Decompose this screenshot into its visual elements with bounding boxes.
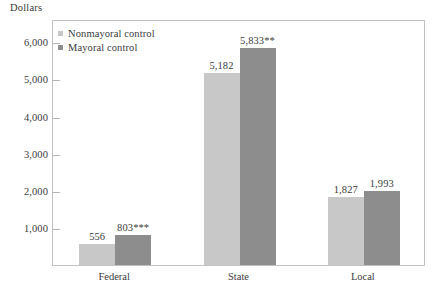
bar-value-label: 5,833** — [228, 35, 288, 46]
x-axis-label-state: State — [189, 271, 289, 282]
bar-federal-mayoral — [115, 235, 151, 265]
bar-state-mayoral — [240, 48, 276, 265]
bars-layer: 556803***5,1825,833**1,8271,993 — [53, 21, 424, 265]
legend-swatch-icon-mayoral — [58, 45, 63, 50]
y-axis-tick-label: 3,000 — [24, 148, 48, 159]
legend-item-mayoral: Mayoral control — [58, 41, 155, 53]
bar-chart: Dollars 1,0002,0003,0004,0005,0006,000 5… — [0, 0, 436, 291]
y-axis-tick-label: 4,000 — [24, 111, 48, 122]
y-axis-tick-mark — [53, 192, 60, 193]
bar-local-nonmayoral — [328, 197, 364, 265]
y-axis-tick-label: 1,000 — [24, 222, 48, 233]
legend-label-mayoral: Mayoral control — [68, 42, 137, 53]
y-axis-tick-label: 5,000 — [24, 74, 48, 85]
y-axis-tick-mark — [53, 229, 60, 230]
plot-area: 556803***5,1825,833**1,8271,993 — [52, 20, 425, 266]
bar-value-label: 1,993 — [352, 178, 412, 189]
bar-federal-nonmayoral — [79, 244, 115, 265]
y-axis-tick-mark — [53, 80, 60, 81]
x-axis-label-local: Local — [313, 271, 413, 282]
y-axis-tick-label: 6,000 — [24, 37, 48, 48]
y-axis-tick-mark — [53, 118, 60, 119]
y-axis-tick-mark — [53, 155, 60, 156]
bar-state-nonmayoral — [204, 73, 240, 265]
chart-legend: Nonmayoral control Mayoral control — [58, 27, 155, 55]
bar-value-label: 803*** — [103, 222, 163, 233]
bar-local-mayoral — [364, 191, 400, 265]
legend-item-nonmayoral: Nonmayoral control — [58, 27, 155, 39]
y-axis-tick-labels: 1,0002,0003,0004,0005,0006,000 — [0, 0, 48, 291]
x-axis-label-federal: Federal — [64, 271, 164, 282]
legend-swatch-icon-nonmayoral — [58, 31, 63, 36]
legend-label-nonmayoral: Nonmayoral control — [68, 28, 155, 39]
y-axis-tick-label: 2,000 — [24, 185, 48, 196]
